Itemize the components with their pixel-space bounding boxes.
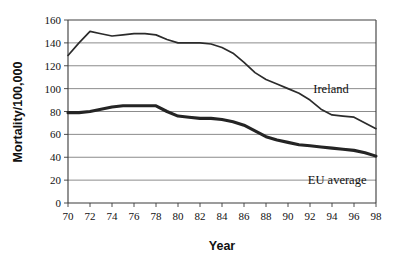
- x-axis-title: Year: [209, 239, 236, 253]
- chart-container: 020406080100120140160 707274767880828486…: [0, 0, 398, 264]
- x-tick-label-96: 96: [349, 210, 361, 222]
- y-tick-label-100: 100: [45, 83, 62, 95]
- y-tick-label-40: 40: [50, 151, 62, 163]
- annotation-eu-average: EU average: [308, 173, 367, 187]
- y-tick-label-20: 20: [50, 174, 62, 186]
- x-axis-tick-labels: 707274767880828486889092949698: [63, 210, 383, 222]
- x-tick-label-86: 86: [239, 210, 251, 222]
- y-tick-label-60: 60: [50, 128, 62, 140]
- y-tick-label-120: 120: [45, 60, 62, 72]
- x-tick-label-74: 74: [107, 210, 119, 222]
- y-tick-label-0: 0: [56, 197, 62, 209]
- y-tick-label-140: 140: [45, 37, 62, 49]
- x-tick-label-94: 94: [327, 210, 339, 222]
- x-tick-label-70: 70: [63, 210, 75, 222]
- x-tick-label-78: 78: [151, 210, 163, 222]
- x-tick-label-82: 82: [195, 210, 206, 222]
- x-tick-label-98: 98: [371, 210, 383, 222]
- y-axis-title: Mortality/100,000: [11, 62, 25, 163]
- x-tick-label-90: 90: [283, 210, 295, 222]
- x-tick-label-92: 92: [305, 210, 316, 222]
- x-tick-label-76: 76: [129, 210, 141, 222]
- x-tick-label-84: 84: [217, 210, 229, 222]
- mortality-line-chart: 020406080100120140160 707274767880828486…: [0, 0, 398, 264]
- x-tick-label-88: 88: [261, 210, 273, 222]
- y-tick-label-160: 160: [45, 14, 62, 26]
- annotation-ireland: Ireland: [313, 82, 349, 96]
- x-tick-label-80: 80: [173, 210, 185, 222]
- y-tick-label-80: 80: [50, 106, 62, 118]
- x-tick-label-72: 72: [85, 210, 96, 222]
